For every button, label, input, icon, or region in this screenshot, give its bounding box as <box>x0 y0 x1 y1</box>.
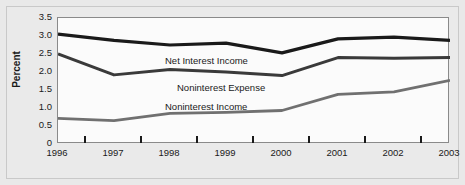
series-label-noninterest-income: Noninterest Income <box>165 102 247 112</box>
x-axis-tick-label: 2003 <box>429 148 465 158</box>
series-line-net-interest-income <box>58 34 450 53</box>
chart-figure: Percent 3.53.02.52.01.51.00.50 199619971… <box>0 0 465 185</box>
x-axis-tick-label: 1999 <box>205 148 245 158</box>
y-axis-tick-label: 3.0 <box>26 30 52 39</box>
x-axis-tick-label: 2000 <box>261 148 301 158</box>
y-axis-tick-label: 1.0 <box>26 102 52 111</box>
x-axis-tick-label: 1998 <box>149 148 189 158</box>
y-axis-tick-label: 1.5 <box>26 84 52 93</box>
x-axis-tick-mark <box>140 136 142 143</box>
series-label-net-interest-income: Net Interest Income <box>165 56 248 66</box>
series-lines <box>58 18 450 144</box>
plot-area <box>57 17 449 143</box>
x-axis-tick-mark <box>364 136 366 143</box>
x-axis-tick-mark <box>308 136 310 143</box>
x-axis-tick-mark <box>84 136 86 143</box>
y-axis-tick-label: 3.5 <box>26 12 52 21</box>
y-axis-title: Percent <box>11 34 22 106</box>
x-axis-tick-mark <box>196 136 198 143</box>
y-axis-tick-label: 0.5 <box>26 120 52 129</box>
y-axis-tick-label: 2.0 <box>26 66 52 75</box>
series-label-noninterest-expense: Noninterest Expense <box>177 83 265 93</box>
x-axis-tick-label: 1997 <box>93 148 133 158</box>
x-axis-tick-label: 1996 <box>37 148 77 158</box>
y-axis-tick-label: 2.5 <box>26 48 52 57</box>
y-axis-tick-label: 0 <box>26 138 52 147</box>
x-axis-tick-mark <box>420 136 422 143</box>
x-axis-tick-mark <box>252 136 254 143</box>
x-axis-tick-label: 2002 <box>373 148 413 158</box>
x-axis-tick-label: 2001 <box>317 148 357 158</box>
series-line-noninterest-expense <box>58 54 450 76</box>
